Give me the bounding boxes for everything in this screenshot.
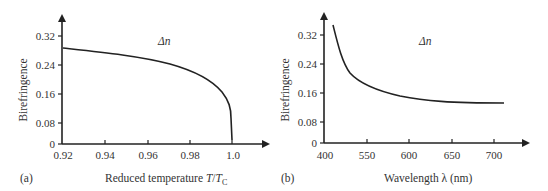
- chart-a: 0 0.08 0.16 0.24 0.32 0.92 0.94 0.96 0.9…: [17, 16, 268, 187]
- chart-b-y-tick-label: 0.24: [298, 58, 318, 70]
- chart-a-y-tick-label: 0.32: [36, 30, 55, 42]
- chart-a-y-ticks: 0 0.08 0.16 0.24 0.32: [36, 30, 62, 150]
- chart-a-x-tick-label: 0.92: [53, 149, 72, 161]
- chart-b-annotation: Δn: [418, 35, 432, 47]
- chart-b-y-tick-label: 0.08: [298, 116, 318, 128]
- chart-a-x-tick-label: 0.94: [95, 149, 115, 161]
- chart-b-y-tick-label: 0: [312, 137, 318, 149]
- chart-b-x-tick-label: 700: [486, 149, 503, 161]
- chart-b-y-tick-label: 0.32: [298, 29, 317, 41]
- chart-b-x-tick-label: 400: [317, 149, 334, 161]
- chart-b-y-label: Birefringence: [279, 58, 292, 121]
- chart-b-x-tick-label: 550: [359, 149, 376, 161]
- chart-a-y-tick-label: 0.24: [36, 59, 56, 71]
- figure: 0 0.08 0.16 0.24 0.32 0.92 0.94 0.96 0.9…: [0, 0, 548, 191]
- chart-a-panel-label: (a): [20, 172, 33, 185]
- chart-b-panel-label: (b): [281, 172, 295, 185]
- chart-a-x-tick-label: 1.0: [226, 149, 240, 161]
- chart-b-x-tick-label: 600: [401, 149, 418, 161]
- chart-b-y-tick-label: 0.16: [298, 87, 318, 99]
- chart-b-y-ticks: 0 0.08 0.16 0.24 0.32: [298, 29, 324, 149]
- chart-a-series-line: [63, 48, 232, 140]
- chart-b-x-tick-label: 650: [444, 149, 461, 161]
- chart-a-x-tick-label: 0.96: [138, 149, 158, 161]
- chart-b-x-label: Wavelength λ (nm): [384, 172, 472, 185]
- chart-a-x-tick-label: 0.98: [180, 149, 200, 161]
- chart-a-x-ticks: 0.92 0.94 0.96 0.98 1.0: [53, 140, 240, 161]
- chart-a-y-tick-label: 0.08: [36, 117, 56, 129]
- chart-a-y-label: Birefringence: [17, 58, 30, 121]
- chart-a-annotation: Δn: [157, 35, 171, 47]
- chart-a-y-tick-label: 0.16: [36, 88, 56, 100]
- chart-a-x-label: Reduced temperature T/TC: [105, 172, 227, 187]
- chart-b: 0 0.08 0.16 0.24 0.32 400 550 600 650 70…: [279, 14, 528, 185]
